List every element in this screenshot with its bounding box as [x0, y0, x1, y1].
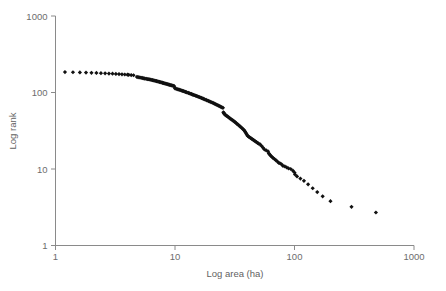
rank-size-scatter-plot: 1101001000 1101001000 Log area (ha) Log … [0, 0, 446, 291]
x-axis-ticks: 1101001000 [53, 246, 425, 262]
data-point [84, 71, 88, 75]
data-point [328, 199, 332, 203]
x-axis-title: Log area (ha) [206, 268, 263, 279]
data-point [302, 179, 306, 183]
data-point [103, 71, 107, 75]
data-point [298, 176, 302, 180]
data-point [63, 70, 67, 74]
y-tick-label: 100 [32, 87, 48, 98]
data-point [107, 71, 111, 75]
y-axis-ticks: 1101001000 [26, 11, 55, 252]
data-point [349, 205, 353, 209]
y-tick-label: 1 [42, 240, 47, 251]
y-tick-label: 10 [37, 164, 48, 175]
data-point [71, 70, 75, 74]
data-point [374, 210, 378, 214]
data-points [63, 70, 378, 215]
data-point [306, 182, 310, 186]
y-axis-title: Log rank [7, 112, 18, 149]
data-point [99, 71, 103, 75]
data-point [78, 70, 82, 74]
x-tick-label: 1000 [403, 251, 424, 262]
axes [56, 16, 415, 246]
x-tick-label: 100 [287, 251, 303, 262]
data-point [89, 71, 93, 75]
data-point [311, 186, 315, 190]
chart-figure: 1101001000 1101001000 Log area (ha) Log … [0, 0, 446, 291]
x-tick-label: 1 [53, 251, 58, 262]
data-point [94, 71, 98, 75]
data-point [321, 194, 325, 198]
x-tick-label: 10 [170, 251, 181, 262]
data-point [315, 190, 319, 194]
y-tick-label: 1000 [26, 11, 47, 22]
